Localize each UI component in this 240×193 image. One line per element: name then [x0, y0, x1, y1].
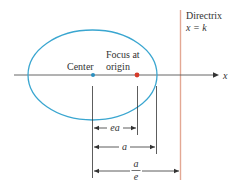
- dim-a-over-e-numerator: a: [134, 158, 139, 169]
- center-point: [91, 73, 95, 77]
- focus-label-line1: Focus at: [106, 49, 140, 60]
- focus-point: [135, 73, 140, 78]
- directrix-equation: x = k: [185, 22, 207, 33]
- dim-a-label: a: [122, 141, 127, 152]
- ellipse-directrix-diagram: x Center Focus at origin Directrix x = k…: [0, 0, 240, 193]
- dim-ea-label: ea: [110, 122, 119, 133]
- dim-a-over-e-denominator: e: [134, 171, 139, 182]
- directrix-title: Directrix: [186, 10, 222, 21]
- x-axis-arrow-icon: [213, 72, 219, 77]
- x-axis-label: x: [222, 70, 228, 81]
- center-label: Center: [67, 61, 94, 72]
- focus-label-line2: origin: [106, 61, 130, 72]
